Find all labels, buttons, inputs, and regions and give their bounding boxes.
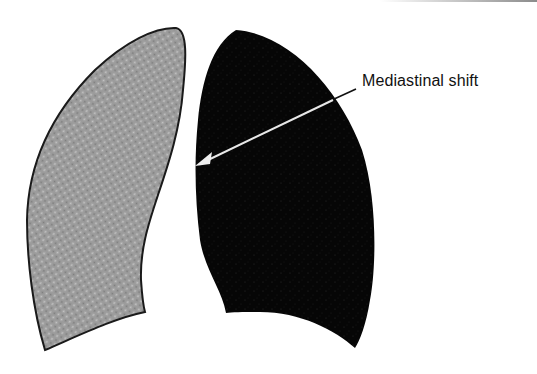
mediastinal-shift-label: Mediastinal shift <box>362 72 478 90</box>
page-edge-artifact <box>380 0 537 2</box>
lung-diagram: Mediastinal shift <box>0 0 537 374</box>
right-lung <box>196 30 375 348</box>
left-lung <box>27 28 185 350</box>
arrow-leader-outside <box>332 89 356 100</box>
lung-diagram-svg <box>0 0 537 374</box>
